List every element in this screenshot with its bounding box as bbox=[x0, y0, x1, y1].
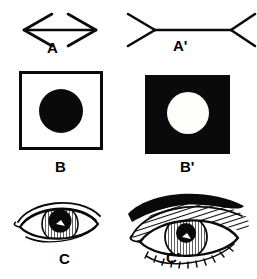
figure-label-a: A bbox=[47, 40, 58, 55]
white-square-outline bbox=[19, 71, 103, 150]
figure-label-b: B bbox=[55, 159, 66, 174]
figure-b-square-panel bbox=[19, 71, 109, 156]
figure-b-prime-square-panel bbox=[145, 75, 235, 157]
arrows-svg bbox=[0, 0, 257, 64]
illusion-figure-plate: A A' B B' bbox=[0, 0, 257, 279]
row-eyes: C C' bbox=[0, 180, 257, 279]
eyes-svg bbox=[0, 180, 257, 279]
figure-c-eye bbox=[14, 203, 100, 242]
figure-label-a-prime: A' bbox=[173, 38, 187, 53]
figure-label-c: C bbox=[59, 251, 70, 266]
black-square-filled bbox=[145, 75, 230, 154]
figure-a-prime-arrow bbox=[128, 14, 255, 46]
figure-a-arrow bbox=[24, 14, 96, 46]
white-circle bbox=[167, 92, 209, 134]
row-arrows: A A' bbox=[0, 0, 257, 64]
figure-label-c-prime: C' bbox=[166, 250, 180, 265]
figure-label-b-prime: B' bbox=[180, 159, 194, 174]
figure-c-prime-eye bbox=[120, 190, 257, 268]
black-circle bbox=[39, 89, 83, 133]
